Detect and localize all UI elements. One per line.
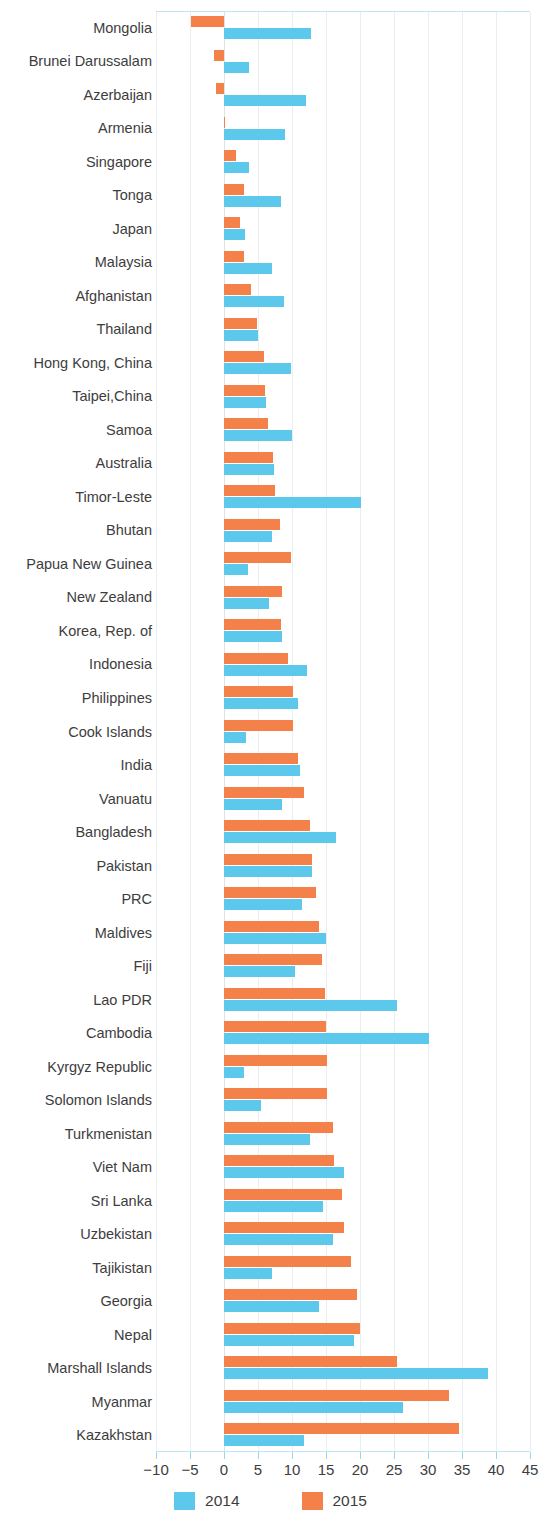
bar-2014 <box>224 330 258 341</box>
bar-row <box>156 12 530 46</box>
axis-tick <box>394 1452 395 1459</box>
bar-row <box>156 1185 530 1219</box>
bar-row <box>156 749 530 783</box>
axis-tick <box>224 1452 225 1459</box>
category-label: PRC <box>4 892 152 907</box>
category-label: Vanuatu <box>4 792 152 807</box>
category-label: New Zealand <box>4 590 152 605</box>
bar-2015 <box>224 1155 334 1166</box>
bar-2014 <box>224 296 284 307</box>
bar-row <box>156 615 530 649</box>
category-label: Uzbekistan <box>4 1227 152 1242</box>
bar-2014 <box>224 129 285 140</box>
category-label: Georgia <box>4 1294 152 1309</box>
axis-tick <box>496 1452 497 1459</box>
axis-tick-label: 0 <box>220 1461 228 1478</box>
category-label: Fiji <box>4 959 152 974</box>
bar-row <box>156 1352 530 1386</box>
bar-row <box>156 1017 530 1051</box>
x-axis: −10−5051015202530354045 <box>156 1452 530 1492</box>
category-label: Cambodia <box>4 1026 152 1041</box>
category-label: Thailand <box>4 322 152 337</box>
axis-tick-label: 10 <box>284 1461 301 1478</box>
bar-row <box>156 950 530 984</box>
horizontal-bar-chart: MongoliaBrunei DarussalamAzerbaijanArmen… <box>0 0 541 1521</box>
bar-row <box>156 649 530 683</box>
category-label: Bhutan <box>4 523 152 538</box>
category-label: Philippines <box>4 691 152 706</box>
category-label: Korea, Rep. of <box>4 624 152 639</box>
axis-tick <box>530 1452 531 1459</box>
bar-2014 <box>224 631 282 642</box>
bar-2014 <box>224 799 282 810</box>
bar-2014 <box>224 1402 403 1413</box>
category-label: Taipei,China <box>4 389 152 404</box>
bar-2015 <box>224 753 298 764</box>
category-label: Pakistan <box>4 859 152 874</box>
category-label: Hong Kong, China <box>4 356 152 371</box>
category-label: Singapore <box>4 155 152 170</box>
bar-2014 <box>224 564 248 575</box>
bar-row <box>156 984 530 1018</box>
category-label: Bangladesh <box>4 825 152 840</box>
bar-2015 <box>224 787 304 798</box>
category-label: Australia <box>4 456 152 471</box>
category-label: Kyrgyz Republic <box>4 1060 152 1075</box>
bar-2015 <box>224 552 291 563</box>
bar-row <box>156 783 530 817</box>
bar-2014 <box>224 263 272 274</box>
bar-2015 <box>224 284 251 295</box>
axis-tick <box>360 1452 361 1459</box>
bar-2015 <box>224 452 273 463</box>
axis-tick-label: 5 <box>254 1461 262 1478</box>
bar-row <box>156 515 530 549</box>
bar-2015 <box>224 820 310 831</box>
category-label: Brunei Darussalam <box>4 54 152 69</box>
legend-label: 2014 <box>205 1492 239 1510</box>
bar-2014 <box>224 732 246 743</box>
bar-2015 <box>224 1423 459 1434</box>
bar-2015 <box>224 1122 333 1133</box>
bar-row <box>156 917 530 951</box>
bar-2014 <box>224 363 291 374</box>
gridline <box>530 12 531 1451</box>
bar-2015 <box>224 385 265 396</box>
axis-tick <box>190 1452 191 1459</box>
bar-row <box>156 180 530 214</box>
bar-2015 <box>214 50 224 61</box>
axis-tick <box>258 1452 259 1459</box>
bar-2014 <box>224 665 307 676</box>
axis-tick <box>326 1452 327 1459</box>
axis-tick-label: 20 <box>352 1461 369 1478</box>
axis-tick-label: 35 <box>454 1461 471 1478</box>
bar-2014 <box>224 698 298 709</box>
bar-2014 <box>224 832 336 843</box>
legend-item[interactable]: 2015 <box>302 1492 367 1510</box>
bar-2014 <box>224 866 312 877</box>
bar-2015 <box>224 988 325 999</box>
bar-2015 <box>224 1055 327 1066</box>
bar-2014 <box>224 1234 333 1245</box>
bar-row <box>156 1252 530 1286</box>
bar-2014 <box>224 1368 488 1379</box>
legend-item[interactable]: 2014 <box>174 1492 239 1510</box>
bar-2014 <box>224 1201 323 1212</box>
axis-tick-label: 15 <box>318 1461 335 1478</box>
bar-2014 <box>224 531 272 542</box>
category-label: Malaysia <box>4 255 152 270</box>
bar-row <box>156 146 530 180</box>
bar-row <box>156 1118 530 1152</box>
category-label: India <box>4 758 152 773</box>
bar-2014 <box>224 1268 272 1279</box>
bar-2015 <box>224 251 244 262</box>
category-label: Turkmenistan <box>4 1127 152 1142</box>
category-label: Papua New Guinea <box>4 557 152 572</box>
bar-2015 <box>224 686 293 697</box>
bar-2014 <box>224 397 266 408</box>
bar-row <box>156 883 530 917</box>
category-label: Viet Nam <box>4 1160 152 1175</box>
bar-row <box>156 1285 530 1319</box>
axis-tick-label: 30 <box>420 1461 437 1478</box>
bar-2015 <box>224 586 282 597</box>
bar-2015 <box>224 720 293 731</box>
